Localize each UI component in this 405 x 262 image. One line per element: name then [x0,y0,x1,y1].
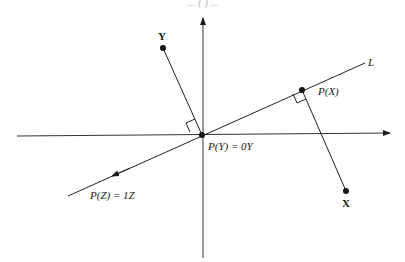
right-angle-marker-origin [186,119,195,132]
point-Y [160,45,166,51]
label-PX: P(X) [317,85,339,98]
point-PX [299,87,305,93]
line-L-direction-arrow [112,168,130,176]
point-X [343,188,349,194]
label-L: L [367,56,374,68]
perpendicular-X [302,90,346,191]
label-PZ: P(Z) = 1Z [89,189,136,202]
label-Y: Y [158,30,166,42]
perpendicular-Y [163,48,202,135]
label-PY: P(Y) = 0Y [207,140,255,153]
label-X: X [342,197,350,209]
point-origin [199,132,205,138]
top-caption-partial: ... ( ) ... [187,0,219,9]
projection-diagram: ... ( ) ... Y X L P(X) P(Y) = 0Y P(Z) = … [0,0,405,262]
